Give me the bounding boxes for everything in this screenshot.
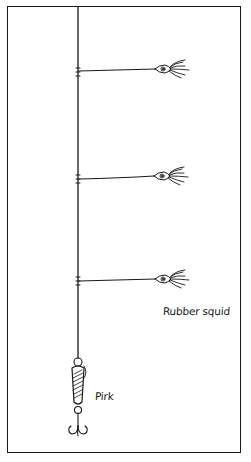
squid-dropper-2 xyxy=(76,167,188,185)
squid-icon xyxy=(155,60,189,78)
rig-illustration xyxy=(0,0,251,462)
squid-dropper-1 xyxy=(76,60,189,78)
squid-dropper-3 xyxy=(76,270,189,288)
pirk-label: Pirk xyxy=(95,390,114,402)
squid-icon xyxy=(155,270,189,288)
rubber-squid-label: Rubber squid xyxy=(163,305,231,317)
squid-icon xyxy=(154,167,188,185)
pirk-icon xyxy=(72,358,86,426)
treble-hook-icon xyxy=(69,426,87,436)
